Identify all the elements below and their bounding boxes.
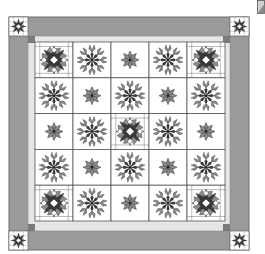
quilt-block-small-star [187, 114, 225, 150]
quilt-block-small-star [149, 78, 187, 114]
quilt-block-spiky-star [73, 114, 111, 150]
quilt-block-complex-star [35, 185, 73, 221]
quilt-block-spiky-star [111, 149, 149, 185]
quilt-block-spiky-star [149, 114, 187, 150]
quilt-block-complex-star [187, 185, 225, 221]
quilt-block-spiky-star [149, 185, 187, 221]
inner-cornerstone [223, 224, 230, 231]
border-corner-block [230, 17, 249, 36]
border-corner-block [9, 17, 28, 36]
quilt-block-spiky-star [149, 42, 187, 78]
quilt-block-spiky-star [73, 185, 111, 221]
inner-cornerstone [28, 36, 35, 43]
quilt-block-small-star [149, 149, 187, 185]
quilt-block-small-star [73, 149, 111, 185]
quilt-block-spiky-star [35, 149, 73, 185]
quilt-block-small-star [35, 114, 73, 150]
border-corner-block [9, 231, 28, 250]
border-corner-block [230, 231, 249, 250]
quilt-block-complex-star [111, 114, 149, 150]
page-curl-icon [257, 0, 265, 14]
quilt-block-spiky-star [111, 78, 149, 114]
quilt-block-complex-star [187, 42, 225, 78]
quilt-block-small-star [111, 42, 149, 78]
quilt-block-small-star [111, 185, 149, 221]
block-grid [35, 42, 225, 221]
quilt-block-spiky-star [35, 78, 73, 114]
inner-cornerstone [28, 224, 35, 231]
quilt-block-spiky-star [73, 42, 111, 78]
quilt-block-spiky-star [187, 149, 225, 185]
quilt-block-spiky-star [187, 78, 225, 114]
quilt-block-complex-star [35, 42, 73, 78]
quilt-block-small-star [73, 78, 111, 114]
quilt-preview [0, 0, 265, 254]
